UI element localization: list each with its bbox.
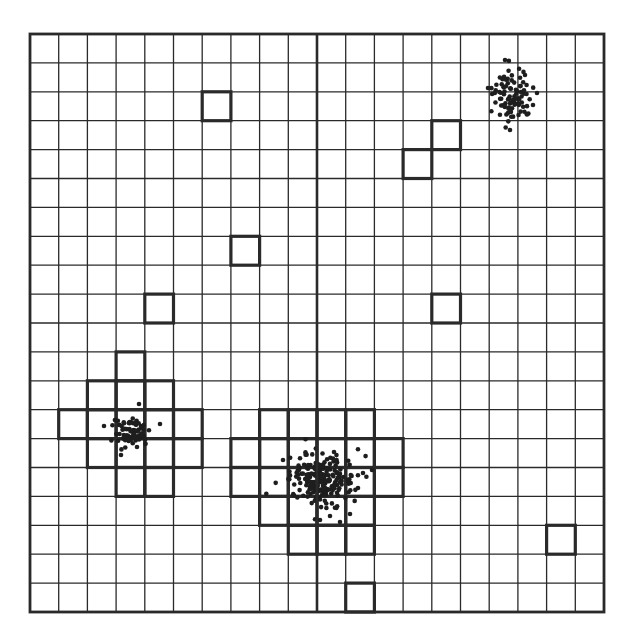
data-point: [335, 504, 340, 509]
data-point: [535, 91, 540, 96]
data-point: [523, 73, 528, 78]
highlighted-cell: [432, 121, 461, 150]
highlighted-cell: [346, 525, 375, 554]
data-point: [294, 470, 299, 475]
data-point: [292, 493, 297, 498]
highlighted-cell: [547, 525, 576, 554]
data-point: [297, 488, 302, 493]
data-point: [328, 514, 333, 519]
data-point: [296, 463, 301, 468]
data-point: [338, 520, 343, 525]
data-point: [506, 119, 511, 124]
highlighted-cell: [116, 468, 145, 497]
highlighted-cell: [260, 410, 289, 439]
data-point: [116, 419, 121, 424]
data-point: [347, 462, 352, 467]
highlighted-cell: [87, 381, 116, 410]
data-point: [493, 91, 498, 96]
data-point: [498, 90, 503, 95]
data-point: [264, 492, 269, 497]
data-point: [119, 453, 124, 458]
data-point: [370, 468, 375, 473]
data-point: [305, 466, 310, 471]
data-point: [298, 456, 303, 461]
data-point: [525, 104, 530, 109]
highlighted-cell: [288, 525, 317, 554]
data-point: [518, 109, 523, 114]
data-point: [303, 437, 308, 442]
data-point: [306, 477, 311, 482]
data-point: [140, 431, 145, 436]
highlighted-cell: [288, 410, 317, 439]
data-point: [517, 103, 522, 108]
data-point: [515, 89, 520, 94]
data-point: [135, 445, 140, 450]
data-point: [330, 501, 335, 506]
data-point: [336, 493, 341, 498]
data-point: [298, 481, 303, 486]
highlighted-cell: [317, 410, 346, 439]
highlighted-cell: [87, 439, 116, 468]
highlighted-cell: [346, 496, 375, 525]
data-point: [503, 125, 508, 130]
data-point: [328, 456, 333, 461]
highlighted-cell: [174, 410, 203, 439]
data-point: [273, 481, 278, 486]
data-point: [133, 435, 138, 440]
data-point: [308, 481, 313, 486]
data-point: [512, 80, 517, 85]
data-point: [128, 429, 133, 434]
data-point: [318, 518, 323, 523]
highlighted-cell: [346, 410, 375, 439]
highlighted-cell: [317, 525, 346, 554]
data-point: [309, 486, 314, 491]
highlighted-cell: [374, 439, 403, 468]
data-point: [117, 423, 122, 428]
data-point: [525, 112, 530, 117]
data-point: [331, 472, 336, 477]
data-point: [287, 469, 292, 474]
highlighted-cell: [145, 294, 174, 323]
data-point: [117, 432, 122, 437]
data-point: [509, 87, 514, 92]
data-point: [110, 423, 115, 428]
data-point: [498, 97, 503, 102]
data-point: [301, 493, 306, 498]
highlighted-cell: [174, 439, 203, 468]
data-point: [502, 103, 507, 108]
data-point: [304, 452, 309, 457]
data-point: [294, 474, 299, 479]
data-point: [121, 420, 126, 425]
data-point: [335, 470, 340, 475]
data-point: [332, 450, 337, 455]
data-point: [320, 492, 325, 497]
data-point: [489, 109, 494, 114]
data-point: [109, 438, 114, 443]
center-cluster: [264, 437, 374, 524]
data-point: [336, 488, 341, 493]
data-point: [356, 473, 361, 478]
data-point: [338, 480, 343, 485]
data-point: [518, 76, 523, 81]
data-point: [352, 499, 357, 504]
data-point: [288, 456, 293, 461]
highlighted-cell: [145, 381, 174, 410]
data-point: [332, 482, 337, 487]
highlighted-cell: [403, 150, 432, 179]
data-point: [119, 447, 124, 452]
data-point: [123, 438, 128, 443]
data-point: [292, 482, 297, 487]
data-point: [506, 68, 511, 73]
data-point: [343, 496, 348, 501]
data-point: [286, 477, 291, 482]
highlighted-cell: [145, 468, 174, 497]
data-point: [500, 77, 505, 82]
data-point: [325, 479, 330, 484]
data-point: [318, 464, 323, 469]
data-point: [281, 458, 286, 463]
data-point: [522, 88, 527, 93]
data-point: [361, 471, 366, 476]
highlighted-cell: [231, 236, 260, 265]
data-point: [318, 497, 323, 502]
data-point: [122, 433, 127, 438]
